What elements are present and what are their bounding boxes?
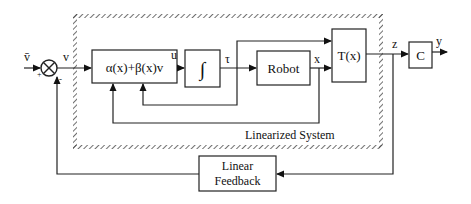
signal-v: v (63, 50, 69, 64)
transform-label: T(x) (337, 48, 360, 63)
region-label: Linearized System (245, 128, 335, 142)
signal-y: y (436, 34, 442, 48)
robot-label: Robot (268, 61, 300, 76)
signal-tau: τ (225, 52, 230, 66)
signal-vbar: v̄ (24, 50, 30, 64)
output-block-label: C (416, 48, 425, 63)
summing-junction (41, 60, 57, 76)
linear-feedback-label-line2: Feedback (215, 174, 261, 188)
signal-x: x (314, 52, 320, 66)
linear-feedback-label-line1: Linear (222, 159, 253, 173)
signal-u: u (171, 48, 177, 62)
signal-z: z (392, 37, 397, 51)
block-diagram: Linearized System v̄ + - v α(x)+β(x)v u … (0, 0, 471, 204)
minus-sign: - (59, 74, 62, 84)
control-law-label: α(x)+β(x)v (106, 60, 164, 75)
feedback-to-sum-wire (57, 77, 199, 174)
